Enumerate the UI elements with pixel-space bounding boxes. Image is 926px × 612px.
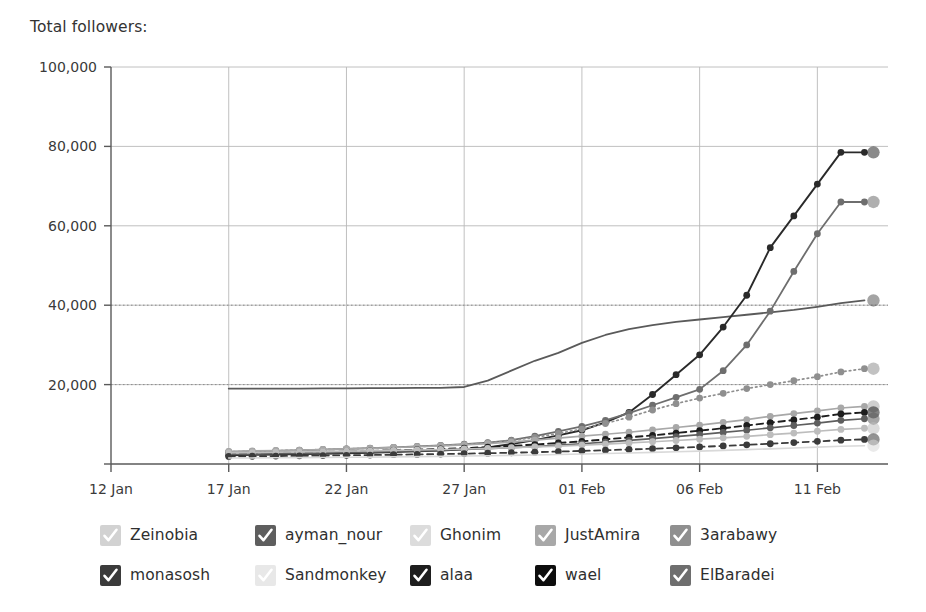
series-3arabawy — [225, 363, 879, 456]
series-marker — [626, 446, 633, 453]
series-marker — [673, 437, 680, 444]
series-marker — [602, 420, 609, 427]
series-marker — [743, 441, 750, 448]
legend-item-3arabawy[interactable]: 3arabawy — [670, 518, 805, 552]
series-marker — [861, 149, 868, 156]
series-marker — [838, 405, 845, 412]
series-marker — [861, 436, 868, 443]
legend-item-justamira[interactable]: JustAmira — [535, 518, 670, 552]
series-marker — [790, 422, 797, 429]
series-endpoint-dot — [867, 196, 879, 208]
legend-item-label: alaa — [440, 566, 473, 584]
series-marker — [696, 443, 703, 450]
legend-checkbox-icon[interactable] — [535, 565, 556, 586]
series-marker — [649, 407, 656, 414]
legend-item-elbaradei[interactable]: ElBaradei — [670, 558, 805, 592]
legend-item-label: monasosh — [130, 566, 210, 584]
series-marker — [790, 410, 797, 417]
legend-checkbox-icon[interactable] — [670, 565, 691, 586]
legend-item-wael[interactable]: wael — [535, 558, 670, 592]
legend-item-sandmonkey[interactable]: Sandmonkey — [255, 558, 410, 592]
series-endpoint-dot — [867, 422, 879, 434]
series-marker — [720, 367, 727, 374]
legend-item-ayman_nour[interactable]: ayman_nour — [255, 518, 410, 552]
series-marker — [743, 433, 750, 440]
legend-checkbox-icon[interactable] — [100, 565, 121, 586]
series-wael — [225, 146, 879, 459]
series-marker — [767, 440, 774, 447]
series-marker — [790, 377, 797, 384]
x-axis-labels: 12 Jan17 Jan22 Jan27 Jan01 Feb06 Feb11 F… — [89, 481, 841, 497]
series-marker — [861, 415, 868, 422]
legend-item-label: JustAmira — [565, 526, 640, 544]
series-marker — [743, 342, 750, 349]
series-marker — [767, 244, 774, 251]
legend-checkbox-icon[interactable] — [255, 525, 276, 546]
series-marker — [861, 199, 868, 206]
series-endpoint-dot — [867, 294, 879, 306]
series-marker — [838, 369, 845, 376]
series-marker — [673, 400, 680, 407]
series-elbaradei — [225, 196, 879, 456]
series-marker — [579, 442, 586, 449]
series-marker — [649, 438, 656, 445]
y-axis-tick-label: 20,000 — [48, 377, 97, 393]
legend-checkbox-icon[interactable] — [410, 525, 431, 546]
series-marker — [743, 416, 750, 423]
legend-item-label: 3arabawy — [700, 526, 777, 544]
chart-axes — [104, 67, 888, 472]
reference-lines — [111, 305, 888, 384]
series-marker — [696, 436, 703, 443]
legend-checkbox-icon[interactable] — [410, 565, 431, 586]
chart-legend: Zeinobiaayman_nourGhonimJustAmira3arabaw… — [100, 515, 926, 600]
x-axis-tick-label: 22 Jan — [325, 481, 369, 497]
series-endpoint-dot — [867, 146, 879, 158]
series-marker — [626, 414, 633, 421]
data-series — [225, 146, 879, 460]
series-marker — [696, 351, 703, 358]
series-marker — [814, 428, 821, 435]
legend-item-zeinobia[interactable]: Zeinobia — [100, 518, 255, 552]
line-chart: 20,00040,00060,00080,000100,000 12 Jan17… — [0, 0, 926, 512]
chart-page: Total followers: 20,00040,00060,00080,00… — [0, 0, 926, 612]
series-marker — [861, 409, 868, 416]
series-marker — [838, 426, 845, 433]
series-marker — [579, 426, 586, 433]
legend-checkbox-icon[interactable] — [100, 525, 121, 546]
series-endpoint-dot — [867, 440, 879, 452]
series-marker — [861, 365, 868, 372]
series-marker — [696, 386, 703, 393]
legend-item-monasosh[interactable]: monasosh — [100, 558, 255, 592]
legend-item-alaa[interactable]: alaa — [410, 558, 535, 592]
legend-item-ghonim[interactable]: Ghonim — [410, 518, 535, 552]
series-marker — [861, 403, 868, 410]
series-marker — [838, 437, 845, 444]
legend-checkbox-icon[interactable] — [670, 525, 691, 546]
series-marker — [673, 394, 680, 401]
series-marker — [720, 390, 727, 397]
series-marker — [861, 425, 868, 432]
x-axis-tick-label: 11 Feb — [794, 481, 841, 497]
legend-checkbox-icon[interactable] — [535, 525, 556, 546]
series-marker — [767, 381, 774, 388]
legend-item-label: Ghonim — [440, 526, 501, 544]
series-marker — [767, 431, 774, 438]
grid-lines — [111, 67, 888, 464]
series-marker — [838, 199, 845, 206]
series-marker — [790, 439, 797, 446]
series-marker — [649, 445, 656, 452]
legend-item-label: Sandmonkey — [285, 566, 387, 584]
legend-item-label: wael — [565, 566, 601, 584]
series-marker — [602, 447, 609, 454]
x-axis-tick-label: 06 Feb — [676, 481, 723, 497]
series-marker — [790, 268, 797, 275]
legend-item-label: ayman_nour — [285, 526, 382, 544]
series-marker — [790, 430, 797, 437]
y-axis-tick-label: 60,000 — [48, 218, 97, 234]
series-marker — [673, 444, 680, 451]
series-marker — [743, 427, 750, 434]
legend-checkbox-icon[interactable] — [255, 565, 276, 586]
series-marker — [790, 212, 797, 219]
series-marker — [767, 308, 774, 315]
series-marker — [720, 434, 727, 441]
